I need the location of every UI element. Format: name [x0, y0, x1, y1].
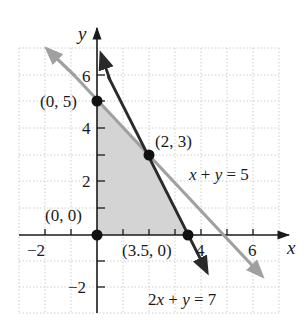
y-tick-label-4: 4 [82, 119, 91, 138]
eq1-y: y [213, 165, 223, 184]
x-tick-label-6: 6 [248, 241, 257, 260]
x-tick-label-neg2: −2 [27, 241, 45, 260]
label-point-0-0: (0, 0) [45, 206, 82, 225]
feasible-region [97, 101, 188, 235]
x-axis-label: x [286, 237, 296, 258]
y-tick-label-2: 2 [82, 172, 91, 191]
y-axis-label: y [76, 23, 87, 44]
point-0-5 [92, 96, 103, 107]
eq2-y: y [180, 290, 190, 309]
point-0-0 [92, 230, 103, 241]
label-point-0-5: (0, 5) [40, 92, 77, 111]
eq2-eq: = 7 [190, 290, 217, 309]
equation-label-2x-plus-y-eq-7: 2x + y = 7 [148, 290, 217, 309]
equation-label-x-plus-y-eq-5: x + y = 5 [188, 165, 249, 184]
eq2-plus: + [164, 290, 182, 309]
eq1-eq: = 5 [222, 165, 249, 184]
eq1-plus: + [197, 165, 215, 184]
linear-programming-graph: y x −2 4 6 6 4 2 −2 (0, 5) (2, 3) (0, 0)… [0, 0, 307, 328]
point-3-5-0 [183, 230, 194, 241]
label-point-2-3: (2, 3) [155, 132, 192, 151]
x-tick-label-4: 4 [196, 241, 205, 260]
y-tick-label-neg2: −2 [68, 278, 86, 297]
eq2-2: 2 [148, 290, 157, 309]
y-tick-label-6: 6 [82, 67, 91, 86]
point-2-3 [144, 150, 155, 161]
label-point-3-5-0: (3.5, 0) [122, 241, 172, 260]
